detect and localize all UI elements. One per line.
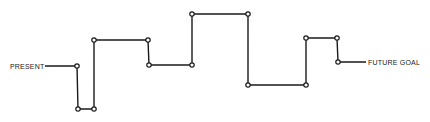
path-node <box>190 63 194 67</box>
path-node <box>304 36 308 40</box>
path-node <box>146 38 150 42</box>
path-node <box>335 36 339 40</box>
present-label: PRESENT <box>10 63 45 70</box>
path-node <box>75 64 79 68</box>
winding-path-line <box>45 14 366 109</box>
path-node <box>246 83 250 87</box>
path-node <box>92 38 96 42</box>
path-node <box>92 107 96 111</box>
path-node <box>76 107 80 111</box>
path-to-goal-diagram: PRESENT FUTURE GOAL <box>0 0 430 122</box>
path-nodes <box>75 12 340 111</box>
path-node <box>147 63 151 67</box>
path-node <box>246 12 250 16</box>
path-node <box>304 83 308 87</box>
path-node <box>190 12 194 16</box>
path-node <box>336 60 340 64</box>
future-goal-label: FUTURE GOAL <box>368 59 420 66</box>
